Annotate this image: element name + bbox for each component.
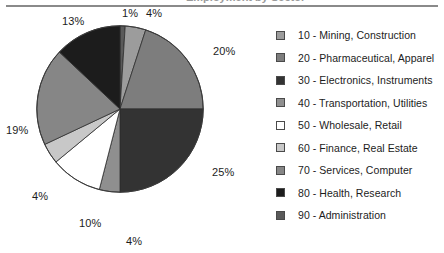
- legend-item-label: 20 - Pharmaceutical, Apparel: [298, 52, 434, 64]
- legend-item-label: 90 - Administration: [298, 209, 386, 221]
- legend-item[interactable]: 60 - Finance, Real Estate: [276, 137, 444, 160]
- slice-label-4pct-left: 4%: [32, 190, 48, 202]
- legend-item[interactable]: 40 - Transportation, Utilities: [276, 92, 444, 115]
- chart-legend: 10 - Mining, Construction20 - Pharmaceut…: [276, 24, 444, 227]
- legend-item[interactable]: 30 - Electronics, Instruments: [276, 69, 444, 92]
- slice-label-10pct: 10%: [79, 217, 101, 229]
- slice-label-13pct: 13%: [62, 15, 84, 27]
- legend-swatch-icon: [276, 166, 285, 175]
- slice-label-20pct: 20%: [213, 45, 235, 57]
- legend-swatch-icon: [276, 98, 285, 107]
- pie-slice[interactable]: [120, 109, 203, 192]
- slice-label-19pct: 19%: [6, 124, 28, 136]
- legend-item-label: 80 - Health, Research: [298, 187, 401, 199]
- legend-item[interactable]: 90 - Administration: [276, 204, 444, 227]
- legend-item[interactable]: 50 - Wholesale, Retail: [276, 114, 444, 137]
- pie-chart-svg: [36, 25, 204, 193]
- pie-chart: [36, 25, 204, 193]
- legend-item-label: 40 - Transportation, Utilities: [298, 97, 427, 109]
- slice-label-1pct: 1%: [122, 7, 138, 19]
- pie-chart-area: 1% 4% 20% 25% 4% 10% 4% 19% 13%: [0, 7, 252, 253]
- slice-label-4pct-bottom: 4%: [126, 235, 142, 247]
- legend-item-label: 60 - Finance, Real Estate: [298, 142, 418, 154]
- legend-item[interactable]: 70 - Services, Computer: [276, 159, 444, 182]
- legend-item-label: 50 - Wholesale, Retail: [298, 119, 402, 131]
- slice-label-4pct-top: 4%: [146, 7, 162, 19]
- cropped-title-text: Employment by Sector: [186, 0, 305, 3]
- legend-swatch-icon: [276, 31, 285, 40]
- legend-swatch-icon: [276, 188, 285, 197]
- legend-swatch-icon: [276, 121, 285, 130]
- legend-item-label: 70 - Services, Computer: [298, 164, 412, 176]
- legend-item-label: 30 - Electronics, Instruments: [298, 74, 433, 86]
- legend-swatch-icon: [276, 53, 285, 62]
- slice-label-25pct: 25%: [212, 166, 234, 178]
- pie-slice-group: [37, 26, 203, 192]
- legend-swatch-icon: [276, 143, 285, 152]
- legend-swatch-icon: [276, 211, 285, 220]
- legend-item-label: 10 - Mining, Construction: [298, 29, 416, 41]
- legend-swatch-icon: [276, 76, 285, 85]
- legend-item[interactable]: 10 - Mining, Construction: [276, 24, 444, 47]
- legend-item[interactable]: 20 - Pharmaceutical, Apparel: [276, 47, 444, 70]
- legend-item[interactable]: 80 - Health, Research: [276, 182, 444, 205]
